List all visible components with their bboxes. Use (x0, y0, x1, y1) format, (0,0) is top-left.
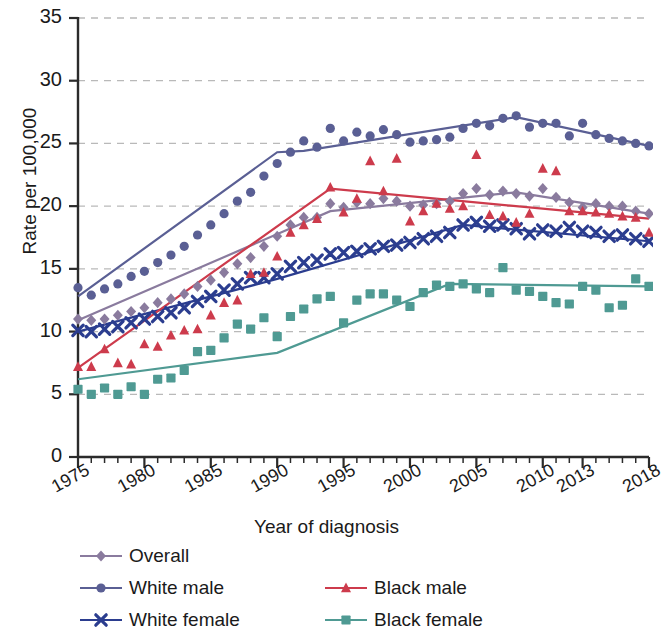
y-tick-label: 5 (18, 381, 62, 404)
legend-marker-icon (323, 610, 369, 630)
series-black-male (78, 189, 649, 368)
legend-marker-icon (78, 610, 124, 630)
y-tick-label: 20 (18, 193, 62, 216)
y-tick-label: 0 (18, 444, 62, 467)
legend-label: Overall (129, 545, 189, 567)
legend-label: Black male (374, 577, 467, 599)
legend-item-white-female: White female (78, 609, 323, 631)
legend-item-black-male: Black male (323, 577, 568, 599)
legend-marker-icon (78, 546, 124, 566)
legend-row: White femaleBlack female (78, 604, 638, 636)
legend-item-black-female: Black female (323, 609, 568, 631)
legend-item-overall: Overall (78, 545, 323, 567)
legend-label: White male (129, 577, 224, 599)
legend-item-white-male: White male (78, 577, 323, 599)
legend-label: White female (129, 609, 240, 631)
y-tick-label: 15 (18, 256, 62, 279)
legend-label: Black female (374, 609, 483, 631)
y-tick-label: 30 (18, 68, 62, 91)
legend-marker-icon (78, 578, 124, 598)
legend-row: White maleBlack male (78, 572, 638, 604)
plot-area (0, 0, 653, 520)
legend-marker-icon (323, 578, 369, 598)
y-tick-label: 25 (18, 130, 62, 153)
legend-row: Overall (78, 540, 638, 572)
series-white-female (78, 225, 649, 332)
y-tick-label: 10 (18, 319, 62, 342)
chart-legend: OverallWhite maleBlack maleWhite femaleB… (78, 540, 638, 636)
y-tick-label: 35 (18, 5, 62, 28)
